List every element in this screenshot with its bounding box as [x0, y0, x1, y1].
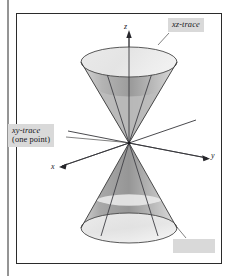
- figure-canvas: z y x xz-trace xy-trace(one point): [0, 0, 239, 276]
- xy-trace-label-line2: (one point): [12, 135, 50, 144]
- blank-caption-box: [173, 239, 215, 253]
- origin-point: [128, 142, 131, 145]
- xy-trace-label-line1: xy-trace: [12, 126, 40, 135]
- xz-trace-label: xz-trace: [168, 18, 204, 32]
- x-axis-label: x: [50, 162, 55, 171]
- xz-trace-label-text: xz-trace: [172, 20, 200, 29]
- y-axis-label: y: [210, 151, 215, 160]
- xy-trace-label: xy-trace(one point): [8, 124, 54, 147]
